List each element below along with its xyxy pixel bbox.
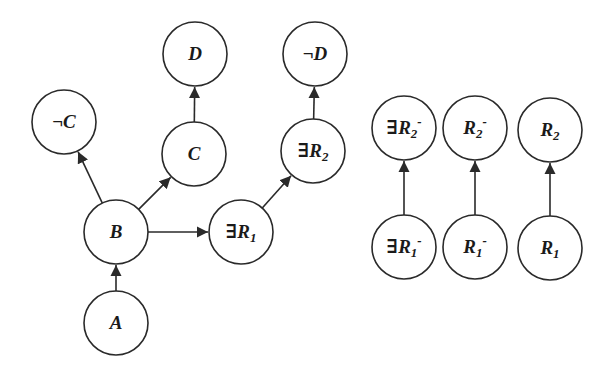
node-label: C	[188, 143, 201, 164]
label-superscript: -	[417, 114, 421, 129]
label-superscript: -	[482, 114, 486, 129]
label-subscript: 2	[552, 128, 560, 143]
node-existsR1inv: ∃R1-	[372, 215, 436, 279]
node-label: ¬D	[303, 43, 328, 64]
label-main: R	[308, 140, 322, 161]
label-main: D	[187, 43, 202, 64]
label-main: R	[462, 117, 476, 138]
concept-graph-diagram: AB¬CCD∃R1∃R2¬D∃R2-R2-R2∃R1-R1-R1	[0, 0, 616, 378]
prefix-symbol: ∃	[226, 221, 238, 242]
edge-B-to-notC	[78, 152, 102, 203]
edge-B-to-C	[139, 177, 171, 209]
node-label: ∃R1-	[386, 233, 421, 260]
node-label: A	[109, 312, 123, 333]
label-main: A	[109, 312, 123, 333]
prefix-symbol: ∃	[386, 236, 398, 257]
node-label: B	[109, 221, 123, 242]
node-existsR1: ∃R1	[209, 200, 273, 264]
label-main: R	[539, 237, 553, 258]
node-R2: R2	[518, 98, 582, 162]
label-main: R	[462, 236, 476, 257]
edge-existsR1-to-existsR2	[262, 176, 291, 208]
node-label: D	[187, 43, 202, 64]
node-D: D	[163, 22, 227, 86]
prefix-symbol: ¬	[52, 111, 63, 132]
label-subscript: 1	[250, 230, 257, 245]
node-R2inv: R2-	[443, 96, 507, 160]
label-main: D	[313, 43, 328, 64]
node-existsR2inv: ∃R2-	[372, 96, 436, 160]
node-B: B	[84, 200, 148, 264]
node-label: ¬C	[52, 111, 76, 132]
label-main: B	[109, 221, 123, 242]
label-main: R	[539, 119, 553, 140]
edge-existsR2-to-notD	[314, 87, 315, 119]
label-subscript: 2	[321, 149, 329, 164]
label-superscript: -	[417, 233, 421, 248]
prefix-symbol: ¬	[303, 43, 314, 64]
nodes-layer: AB¬CCD∃R1∃R2¬D∃R2-R2-R2∃R1-R1-R1	[32, 22, 582, 355]
label-main: C	[63, 111, 76, 132]
node-label: ∃R2-	[386, 114, 421, 141]
node-C: C	[162, 122, 226, 186]
label-superscript: -	[482, 233, 486, 248]
node-R1inv: R1-	[443, 215, 507, 279]
label-main: C	[188, 143, 201, 164]
label-subscript: 1	[553, 246, 560, 261]
node-existsR2: ∃R2	[281, 119, 345, 183]
prefix-symbol: ∃	[386, 117, 398, 138]
node-A: A	[84, 291, 148, 355]
node-notD: ¬D	[283, 22, 347, 86]
label-main: R	[397, 117, 411, 138]
node-notC: ¬C	[32, 90, 96, 154]
prefix-symbol: ∃	[298, 140, 310, 161]
label-main: R	[397, 236, 411, 257]
label-main: R	[236, 221, 250, 242]
node-R1: R1	[518, 216, 582, 280]
